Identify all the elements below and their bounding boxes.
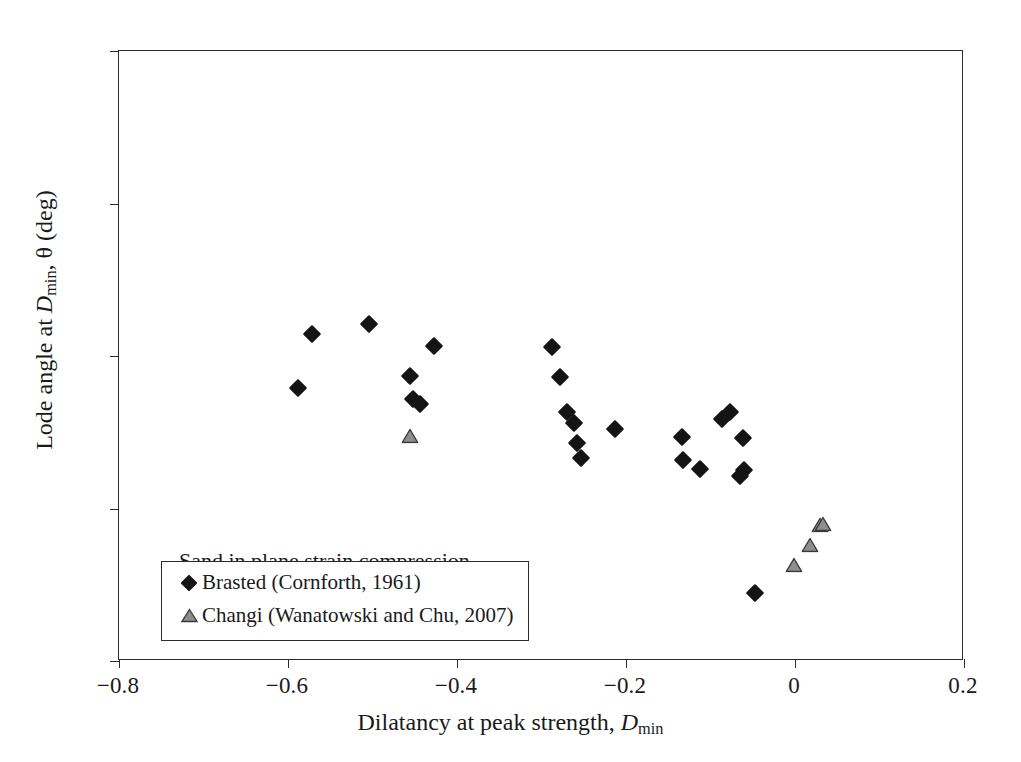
data-point-diamond [425, 336, 443, 354]
x-tick-mark [626, 659, 627, 668]
data-point-diamond [302, 325, 320, 343]
open-triangle-icon [176, 608, 202, 623]
y-axis-label: Lode angle at Dmin, θ (deg) [31, 0, 61, 640]
data-point-diamond [551, 368, 569, 386]
x-axis-label: Dilatancy at peak strength, Dmin [0, 709, 1021, 739]
plot-area: Sand in plane strain compression Brasted… [118, 50, 963, 660]
x-tick-label: −0.2 [604, 674, 647, 697]
y-axis-label-pre: Lode angle at [31, 313, 57, 450]
y-axis-label-subscript: min [41, 270, 60, 295]
legend-label-brasted: Brasted (Cornforth, 1961) [202, 570, 421, 595]
legend: Brasted (Cornforth, 1961) Changi (Wanato… [161, 561, 529, 641]
y-tick-mark [110, 356, 119, 357]
y-axis-label-symbol: D [31, 296, 57, 313]
data-point-diamond [572, 448, 590, 466]
data-point-diamond [746, 584, 764, 602]
x-tick-label: 0.2 [948, 674, 977, 697]
x-axis-label-symbol: D [621, 709, 638, 735]
y-tick-mark [110, 661, 119, 662]
data-point-triangle [786, 557, 803, 572]
data-point-diamond [690, 460, 708, 478]
data-point-diamond [360, 315, 378, 333]
open-triangle-glyph [181, 608, 198, 623]
data-point-diamond [568, 434, 586, 452]
x-tick-mark [119, 659, 120, 668]
x-tick-label: 0 [788, 674, 800, 697]
x-axis-label-pre: Dilatancy at peak strength, [358, 709, 621, 735]
x-tick-mark [964, 659, 965, 668]
data-point-triangle [814, 517, 831, 532]
y-axis-label-post: , θ (deg) [31, 190, 57, 270]
legend-label-changi: Changi (Wanatowski and Chu, 2007) [202, 603, 514, 628]
x-tick-label: −0.4 [435, 674, 478, 697]
data-point-diamond [674, 451, 692, 469]
data-point-triangle [802, 537, 819, 552]
data-point-diamond [733, 429, 751, 447]
scatter-plot-figure: Lode angle at Dmin, θ (deg) Dilatancy at… [0, 0, 1021, 762]
data-point-diamond [606, 420, 624, 438]
y-tick-mark [110, 204, 119, 205]
data-point-diamond [400, 367, 418, 385]
data-point-diamond [543, 338, 561, 356]
data-point-diamond [289, 379, 307, 397]
x-tick-mark [457, 659, 458, 668]
legend-entry-brasted: Brasted (Cornforth, 1961) [176, 570, 421, 595]
data-point-triangle [401, 428, 418, 443]
x-tick-mark [795, 659, 796, 668]
x-axis-label-subscript: min [638, 719, 663, 738]
filled-diamond-icon [176, 577, 202, 589]
y-tick-mark [110, 509, 119, 510]
x-tick-label: −0.6 [266, 674, 309, 697]
data-point-diamond [673, 428, 691, 446]
legend-entry-changi: Changi (Wanatowski and Chu, 2007) [176, 603, 514, 628]
y-tick-mark [110, 51, 119, 52]
x-tick-label: −0.8 [97, 674, 140, 697]
x-tick-mark [288, 659, 289, 668]
